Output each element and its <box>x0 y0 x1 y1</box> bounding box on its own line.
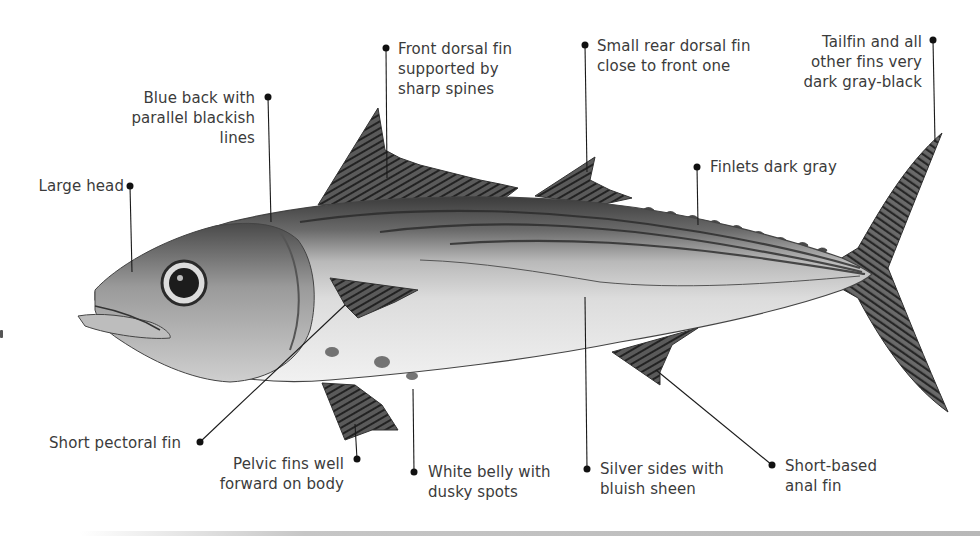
front-dorsal-fin <box>318 108 518 205</box>
fish-head <box>95 223 314 382</box>
page-bottom-shadow <box>80 531 980 536</box>
label-pectoral-fin: Short pectoral fin <box>49 433 199 453</box>
label-pelvic-fins: Pelvic fins well forward on body <box>206 454 344 494</box>
label-large-head: Large head <box>20 176 124 196</box>
page-edge-fragment <box>0 330 3 338</box>
label-anal-fin: Short-based anal fin <box>785 456 905 496</box>
label-rear-dorsal-fin: Small rear dorsal fin close to front one <box>597 36 797 76</box>
rear-dorsal-fin <box>535 157 632 205</box>
pelvic-fin <box>322 383 398 440</box>
label-silver-sides: Silver sides with bluish sheen <box>600 459 750 499</box>
label-blue-back: Blue back with parallel blackish lines <box>115 88 255 148</box>
label-tailfin: Tailfin and all other fins very dark gra… <box>790 32 922 92</box>
fish-diagram: Large head Blue back with parallel black… <box>0 0 980 538</box>
label-white-belly: White belly with dusky spots <box>428 462 578 502</box>
label-finlets: Finlets dark gray <box>710 157 870 177</box>
label-front-dorsal-fin: Front dorsal fin supported by sharp spin… <box>398 39 558 99</box>
